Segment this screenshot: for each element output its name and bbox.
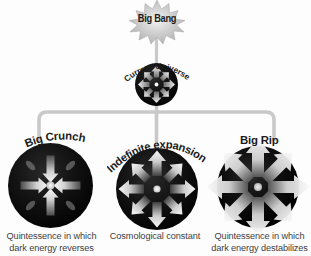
sphere-outward-arrows-icon <box>116 148 198 230</box>
node-current-universe[interactable]: Current Universe <box>130 62 183 106</box>
connector-bus-left <box>39 112 157 140</box>
caption-big-crunch-line1: Quintessence in which <box>0 231 103 243</box>
node-big-bang[interactable]: Big Bang <box>126 0 188 44</box>
node-big-crunch[interactable]: Big Crunch <box>4 138 100 230</box>
big-rip-label: Big Rip <box>240 134 278 146</box>
node-big-rip[interactable]: Big Rip <box>208 138 311 232</box>
caption-big-rip: Quintessence in which dark energy destab… <box>208 231 311 254</box>
sphere-radiating-arrows-icon <box>135 63 178 106</box>
caption-indefinite-expansion-line1: Cosmological constant <box>105 231 205 243</box>
diagram-canvas: Big Bang <box>0 0 311 256</box>
caption-indefinite-expansion: Cosmological constant <box>105 231 205 243</box>
big-bang-label: Big Bang <box>130 12 185 24</box>
node-indefinite-expansion[interactable]: Indefinite expansion <box>107 144 207 232</box>
caption-big-rip-line1: Quintessence in which <box>208 231 311 243</box>
sphere-inward-arrows-icon <box>8 143 93 228</box>
caption-big-crunch: Quintessence in which dark energy revers… <box>0 231 103 254</box>
caption-big-rip-line2: dark energy destabilizes <box>208 243 311 255</box>
caption-big-crunch-line2: dark energy reverses <box>0 243 103 255</box>
sphere-bursting-arrows-icon <box>208 138 311 232</box>
